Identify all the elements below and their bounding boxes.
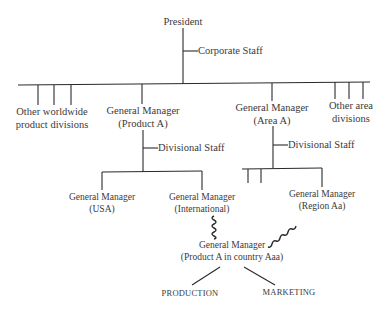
country-to-marketing-line — [244, 267, 275, 285]
top-level-bar — [18, 82, 370, 85]
other-area-label-line1: Other area — [322, 100, 380, 112]
gm-area-a-label-line1: General Manager — [228, 102, 316, 114]
president-label: President — [155, 16, 211, 28]
other-worldwide-label-line2: product divisions — [4, 119, 100, 131]
gm-area-a-label-line2: (Area A) — [228, 115, 316, 127]
divisional-staff-product-label: Divisional Staff — [158, 142, 225, 154]
corporate-staff-label: Corporate Staff — [198, 45, 263, 57]
gm-international-label-line1: General Manager — [160, 192, 244, 203]
gm-product-a-label-line1: General Manager — [102, 105, 184, 117]
area-a-sub-bar — [242, 168, 322, 169]
divisional-staff-area-label: Divisional Staff — [288, 139, 355, 151]
marketing-label: MARKETING — [254, 286, 324, 298]
product-a-sub-bar — [102, 171, 202, 172]
gm-region-label-line2: (Region Aa) — [280, 201, 364, 212]
production-label: PRODUCTION — [150, 287, 230, 299]
gm-usa-label-line1: General Manager — [60, 192, 144, 203]
wavy-international-to-country — [212, 216, 216, 239]
other-worldwide-label-line1: Other worldwide — [4, 106, 100, 118]
org-chart-canvas: President Corporate Staff Other worldwid… — [0, 0, 389, 309]
gm-country-label-line2: (Product A in country Aaa) — [172, 252, 292, 263]
gm-country-label-line1: General Manager — [172, 240, 292, 251]
gm-international-label-line2: (International) — [160, 204, 244, 215]
other-area-label-line2: divisions — [322, 113, 380, 125]
country-to-production-line — [192, 267, 220, 285]
gm-product-a-label-line2: (Product A) — [102, 118, 184, 130]
gm-region-label-line1: General Manager — [280, 189, 364, 200]
gm-usa-label-line2: (USA) — [60, 204, 144, 215]
